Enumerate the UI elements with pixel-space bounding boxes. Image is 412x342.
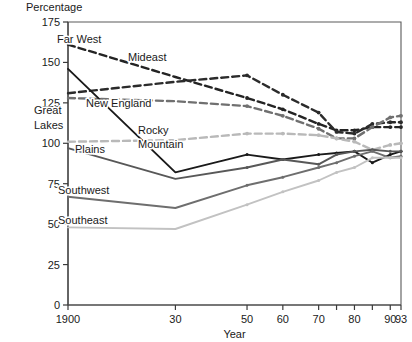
- percentage-by-region-line-chart: 0255075100125150175190030506070809093Per…: [0, 0, 412, 342]
- x-tick-label: 93: [395, 313, 407, 325]
- chart-container: 0255075100125150175190030506070809093Per…: [0, 0, 412, 342]
- data-point: [317, 111, 321, 115]
- series-line-southwest: [68, 151, 401, 208]
- data-point: [245, 96, 249, 100]
- data-point: [371, 150, 374, 153]
- x-axis: 190030506070809093: [56, 305, 407, 325]
- y-tick-label: 150: [42, 56, 60, 68]
- data-point: [353, 128, 357, 132]
- y-tick-label: 25: [48, 259, 60, 271]
- y-tick-label: 0: [54, 299, 60, 311]
- data-point: [281, 93, 285, 97]
- data-point: [399, 125, 403, 129]
- data-point: [246, 184, 249, 187]
- x-tick-label: 80: [348, 313, 360, 325]
- data-point: [370, 125, 374, 129]
- data-point: [317, 122, 321, 126]
- data-point: [389, 150, 392, 153]
- data-point: [317, 163, 320, 166]
- data-point: [246, 153, 249, 156]
- plot-frame: [68, 22, 401, 305]
- series-label: New England: [86, 97, 151, 109]
- y-axis-title: Percentage: [26, 1, 82, 13]
- data-point: [388, 116, 392, 120]
- data-point: [371, 156, 374, 159]
- x-axis-title: Year: [223, 328, 246, 340]
- data-point: [353, 132, 357, 136]
- data-point: [281, 132, 285, 136]
- data-point: [245, 73, 249, 77]
- data-point: [281, 114, 285, 118]
- data-point: [371, 161, 374, 164]
- data-point: [388, 125, 392, 129]
- data-point: [370, 122, 374, 126]
- data-point: [353, 137, 357, 141]
- series-line-southeast: [68, 158, 401, 229]
- data-point: [353, 166, 356, 169]
- series-label: Southeast: [58, 214, 108, 226]
- series-line-plains: [68, 148, 401, 179]
- data-point: [246, 166, 249, 169]
- data-point: [335, 153, 338, 156]
- series-label: Great: [34, 104, 62, 116]
- data-point: [335, 161, 338, 164]
- data-point: [281, 107, 285, 111]
- series-label: Rocky: [138, 124, 169, 136]
- series-label: Southwest: [58, 184, 109, 196]
- plot-border: [68, 22, 401, 305]
- y-tick-label: 175: [42, 16, 60, 28]
- data-point: [281, 176, 284, 179]
- data-point: [335, 137, 339, 141]
- data-point: [389, 153, 392, 156]
- data-point: [281, 190, 284, 193]
- y-tick-label: 100: [42, 137, 60, 149]
- series-label: Lakes: [34, 119, 64, 131]
- x-tick-label: 1900: [56, 313, 80, 325]
- series-label: Far West: [57, 33, 101, 45]
- data-point: [317, 153, 320, 156]
- data-point: [245, 132, 249, 136]
- data-point: [353, 155, 356, 158]
- data-point: [317, 127, 321, 131]
- data-point: [246, 203, 249, 206]
- x-tick-label: 50: [241, 313, 253, 325]
- data-point: [317, 133, 321, 137]
- data-point: [353, 140, 357, 144]
- x-tick-label: 70: [313, 313, 325, 325]
- series-label: Mideast: [128, 51, 167, 63]
- data-point: [399, 141, 403, 145]
- data-point: [388, 143, 392, 147]
- data-point: [353, 150, 356, 153]
- data-point: [317, 179, 320, 182]
- data-point: [335, 130, 339, 134]
- x-tick-label: 30: [169, 313, 181, 325]
- series-group: [68, 45, 403, 229]
- series-line-great-lakes: [68, 134, 401, 150]
- series-label: Plains: [75, 143, 105, 155]
- x-tick-label: 60: [277, 313, 289, 325]
- data-point: [389, 156, 392, 159]
- data-point: [335, 171, 338, 174]
- data-point: [399, 114, 403, 118]
- data-point: [400, 156, 403, 159]
- series-label: Mountain: [138, 138, 183, 150]
- data-point: [317, 166, 320, 169]
- data-point: [399, 120, 403, 124]
- data-point: [400, 150, 403, 153]
- y-axis: 0255075100125150175: [42, 16, 68, 311]
- data-point: [388, 120, 392, 124]
- data-point: [245, 104, 249, 108]
- data-point: [281, 158, 284, 161]
